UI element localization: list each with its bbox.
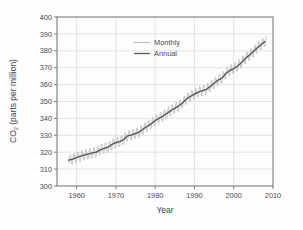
y-tick-label: 370 [40, 63, 52, 72]
annual-series-line [69, 42, 265, 161]
legend-label-annual: Annual [154, 49, 177, 58]
y-tick-label: 390 [40, 30, 52, 39]
y-tick-label: 350 [40, 97, 52, 106]
y-tick-label: 360 [40, 80, 52, 89]
y-tick-label: 400 [40, 13, 52, 22]
x-tick-label: 1980 [147, 191, 163, 200]
co2-line-chart: 300310320330340350360370380390400 196019… [0, 0, 303, 230]
x-tick-label: 2010 [265, 191, 281, 200]
y-tick-label: 300 [40, 182, 52, 191]
y-axis-title: CO2 (parts per million) [8, 59, 19, 143]
y-tick-label: 310 [40, 165, 52, 174]
legend-label-monthly: Monthly [154, 38, 180, 47]
chart-legend: Monthly Annual [134, 38, 180, 58]
x-tick-label: 1970 [108, 191, 124, 200]
y-tick-label: 320 [40, 148, 52, 157]
y-axis-tick-labels: 300310320330340350360370380390400 [40, 13, 52, 191]
y-tick-label: 380 [40, 46, 52, 55]
y-axis-title-rest: (parts per million) [8, 59, 18, 127]
y-axis-title-main: CO [8, 130, 18, 143]
x-axis-tick-labels: 196019701980199020002010 [68, 191, 281, 200]
svg-text:CO2 (parts per million): CO2 (parts per million) [8, 59, 19, 143]
x-axis-title: Year [156, 205, 173, 215]
y-tick-label: 330 [40, 131, 52, 140]
x-tick-label: 1960 [68, 191, 84, 200]
y-tick-label: 340 [40, 114, 52, 123]
chart-figure: 300310320330340350360370380390400 196019… [0, 0, 303, 230]
x-tick-label: 2000 [226, 191, 242, 200]
x-tick-label: 1990 [186, 191, 202, 200]
